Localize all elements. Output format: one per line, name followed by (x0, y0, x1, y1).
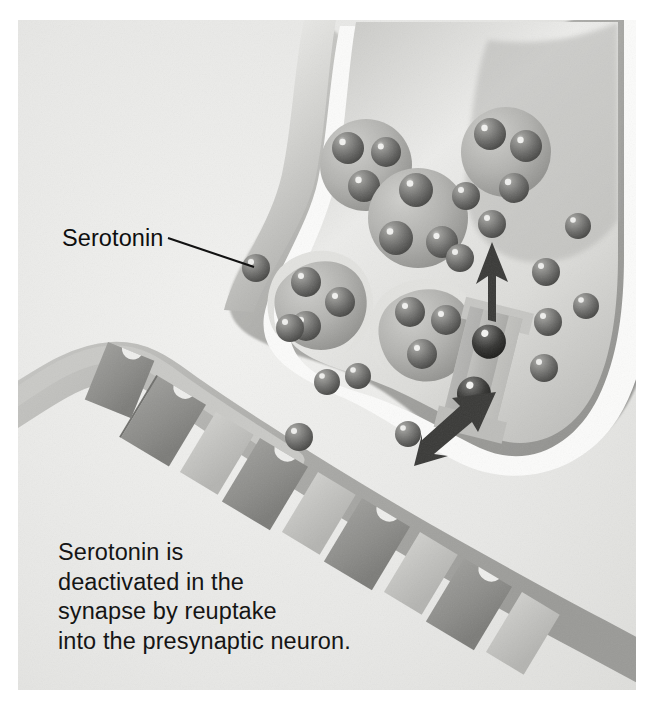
serotonin-label-text: Serotonin (62, 225, 164, 252)
caption-line-2: deactivated in the (58, 568, 438, 598)
caption-line-1: Serotonin is (58, 538, 438, 568)
illustration-plate: Serotonin Serotonin is deactivated in th… (18, 20, 636, 690)
serotonin-label: Serotonin (62, 225, 164, 252)
caption-line-3: synapse by reuptake (58, 597, 438, 627)
illustration-figure: Serotonin Serotonin is deactivated in th… (0, 0, 658, 714)
caption-line-4: into the presynaptic neuron. (58, 627, 438, 657)
caption: Serotonin is deactivated in the synapse … (58, 538, 438, 656)
